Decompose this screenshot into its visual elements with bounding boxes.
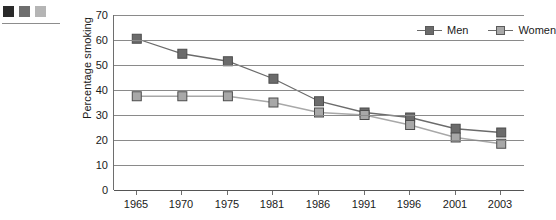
- data-point-women-1970[interactable]: [178, 92, 187, 101]
- y-tick-10: 10: [96, 159, 108, 171]
- data-point-women-1996[interactable]: [406, 121, 415, 130]
- y-tick-20: 20: [96, 134, 108, 146]
- gridline-20: [114, 140, 524, 141]
- x-tick-label-1975: 1975: [215, 198, 239, 210]
- gridline-40: [114, 90, 524, 91]
- x-tick-label-1991: 1991: [352, 198, 376, 210]
- legend-label-women: Women: [518, 24, 556, 36]
- x-tickmark-1991: [364, 191, 365, 195]
- x-tickmark-1965: [136, 191, 137, 195]
- y-tick-70: 70: [96, 9, 108, 21]
- data-point-men-1986[interactable]: [315, 97, 324, 106]
- swatch-row: [3, 6, 46, 17]
- gridline-70: [114, 15, 524, 16]
- y-tick-60: 60: [96, 34, 108, 46]
- x-axis-tick-labels: 196519701975198119861991199620012003: [113, 191, 523, 217]
- data-point-men-2001[interactable]: [451, 124, 460, 133]
- data-point-women-1975[interactable]: [223, 92, 232, 101]
- x-tick-label-2001: 2001: [443, 198, 467, 210]
- plot-area: [113, 15, 524, 190]
- gridline-30: [114, 115, 524, 116]
- data-point-women-1981[interactable]: [269, 98, 278, 107]
- series-line-men: [137, 39, 501, 133]
- legend-line-icon: [417, 30, 425, 31]
- gridline-10: [114, 165, 524, 166]
- swatch-medium: [19, 6, 30, 17]
- x-tickmark-1996: [409, 191, 410, 195]
- legend-label-men: Men: [447, 24, 468, 36]
- legend-line-icon: [505, 30, 513, 31]
- x-tick-label-1981: 1981: [260, 198, 284, 210]
- data-point-men-1981[interactable]: [269, 74, 278, 83]
- figure-caption-block: y sex, 003 ysicians i ca) and Monitoring…: [0, 0, 62, 220]
- x-tickmark-1981: [272, 191, 273, 195]
- y-axis-tick-labels: 010203040506070: [84, 0, 108, 220]
- x-tick-label-1996: 1996: [397, 198, 421, 210]
- chart-legend: Men Women: [417, 24, 556, 36]
- y-tick-30: 30: [96, 109, 108, 121]
- caption-divider: [2, 23, 60, 24]
- data-point-men-2003[interactable]: [497, 128, 506, 137]
- caption-title: y sex, 003: [0, 28, 62, 55]
- x-tickmark-2001: [455, 191, 456, 195]
- swatch-light: [35, 6, 46, 17]
- legend-item-men[interactable]: Men: [417, 24, 468, 36]
- legend-square-icon: [496, 26, 505, 35]
- swatch-dark: [3, 6, 14, 17]
- series-layer: [114, 15, 524, 190]
- legend-item-women[interactable]: Women: [488, 24, 556, 36]
- x-tickmark-1975: [227, 191, 228, 195]
- gridline-50: [114, 65, 524, 66]
- y-tick-40: 40: [96, 84, 108, 96]
- y-tick-50: 50: [96, 59, 108, 71]
- smoking-trend-chart: Percentage smoking 010203040506070 19651…: [62, 0, 531, 220]
- y-tick-0: 0: [102, 184, 108, 196]
- data-point-men-1970[interactable]: [178, 49, 187, 58]
- data-point-women-1965[interactable]: [132, 92, 141, 101]
- data-point-men-1965[interactable]: [132, 34, 141, 43]
- legend-square-icon: [425, 26, 434, 35]
- x-tick-label-1986: 1986: [306, 198, 330, 210]
- legend-line-icon: [488, 30, 496, 31]
- gridline-60: [114, 40, 524, 41]
- x-tickmark-1986: [318, 191, 319, 195]
- x-tickmark-1970: [181, 191, 182, 195]
- x-tick-label-1965: 1965: [124, 198, 148, 210]
- x-tick-label-2003: 2003: [488, 198, 512, 210]
- legend-line-icon: [434, 30, 442, 31]
- x-tick-label-1970: 1970: [169, 198, 193, 210]
- x-tickmark-2003: [500, 191, 501, 195]
- caption-source-note: ysicians i ca) and Monitoring .: [0, 58, 62, 106]
